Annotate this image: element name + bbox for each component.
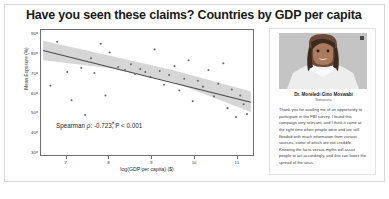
data-point — [117, 66, 119, 68]
data-point — [84, 114, 86, 116]
data-point — [90, 57, 92, 59]
data-point — [202, 86, 204, 88]
x-tick-label: 11 — [235, 160, 240, 165]
data-point — [217, 83, 219, 85]
scatter-chart: Mean Exposure (%) 90807060504030 Spearma… — [12, 26, 262, 176]
data-point — [93, 72, 95, 74]
data-point — [213, 95, 215, 97]
data-point — [222, 62, 224, 64]
person-name: Dr. Moreledi Gino Moswabi — [270, 92, 377, 97]
testimonial-card: Dr. Moreledi Gino Moswabi Botswana Thank… — [269, 28, 376, 175]
y-tick-mark — [36, 152, 38, 153]
data-point — [188, 59, 190, 61]
data-point — [70, 99, 72, 101]
data-point — [227, 107, 229, 109]
data-point — [207, 69, 209, 71]
data-point — [139, 68, 141, 70]
avatar — [279, 33, 367, 89]
data-point — [239, 94, 241, 96]
x-tick-label: 9 — [150, 160, 152, 165]
x-tick-mark — [151, 156, 152, 159]
annotation-prefix: Spearman — [56, 122, 87, 129]
x-tick-label: 8 — [107, 160, 109, 165]
data-point — [66, 71, 68, 73]
data-point — [80, 67, 82, 69]
spearman-annotation: Spearman ρ: -0.723, P < 0.001 — [56, 122, 142, 129]
y-tick-mark — [36, 112, 38, 113]
data-point — [178, 90, 180, 92]
data-point — [56, 41, 58, 43]
x-axis-label: log(GDP per capita) ($) — [40, 166, 254, 172]
data-point — [246, 113, 248, 115]
data-point — [235, 116, 237, 118]
data-point — [163, 84, 165, 86]
annotation-suffix: : -0.723, P < 0.001 — [90, 122, 142, 129]
testimonial-quote: Thank you for availing me of an opportun… — [279, 107, 368, 167]
data-point — [109, 51, 111, 53]
data-point — [197, 80, 199, 82]
regression-line — [43, 51, 251, 103]
data-point — [130, 63, 132, 65]
plot-svg — [41, 30, 253, 155]
y-tick-mark — [36, 132, 38, 133]
data-point — [159, 70, 161, 72]
x-tick-mark — [237, 156, 238, 159]
y-tick-mark — [36, 32, 38, 33]
data-point — [231, 89, 233, 91]
x-tick-mark — [194, 156, 195, 159]
x-tick-mark — [66, 156, 67, 159]
data-point — [49, 85, 51, 87]
data-point — [243, 103, 245, 105]
data-point — [192, 100, 194, 102]
data-point — [104, 94, 106, 96]
y-axis-ticks: 90807060504030 — [12, 26, 38, 159]
portrait-photo-icon — [279, 33, 367, 89]
person-role: Botswana — [270, 98, 377, 102]
x-tick-label: 7 — [64, 160, 66, 165]
x-tick-label: 10 — [192, 160, 197, 165]
slide-root: Have you seen these claims? Countries by… — [0, 0, 389, 199]
photo-corner-badge — [360, 36, 364, 40]
data-point — [183, 78, 185, 80]
data-point — [149, 76, 151, 78]
data-point — [100, 43, 102, 45]
data-point — [134, 73, 136, 75]
y-tick-mark — [36, 52, 38, 53]
data-point — [144, 71, 146, 73]
y-tick-mark — [36, 72, 38, 73]
data-point — [168, 74, 170, 76]
page-title: Have you seen these claims? Countries by… — [26, 8, 371, 22]
data-point — [124, 69, 126, 71]
y-tick-mark — [36, 92, 38, 93]
plot-area — [40, 29, 254, 156]
x-tick-mark — [108, 156, 109, 159]
data-point — [174, 65, 176, 67]
data-point — [154, 48, 156, 50]
